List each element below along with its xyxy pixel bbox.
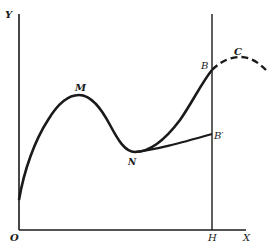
main-curve [19,70,212,200]
point-b-prime-label: B′ [213,130,224,141]
alternate-branch [135,134,212,152]
diagram-canvas: Y O H X M N B B′ C [0,0,270,251]
origin-label: O [10,232,19,243]
point-c-label: C [234,46,242,57]
h-label: H [207,232,217,243]
y-axis-label: Y [5,9,13,20]
point-b-label: B [200,60,208,71]
point-m-label: M [74,82,87,93]
dashed-continuation [212,57,266,70]
x-axis-label: X [242,232,251,243]
point-n-label: N [127,157,137,167]
